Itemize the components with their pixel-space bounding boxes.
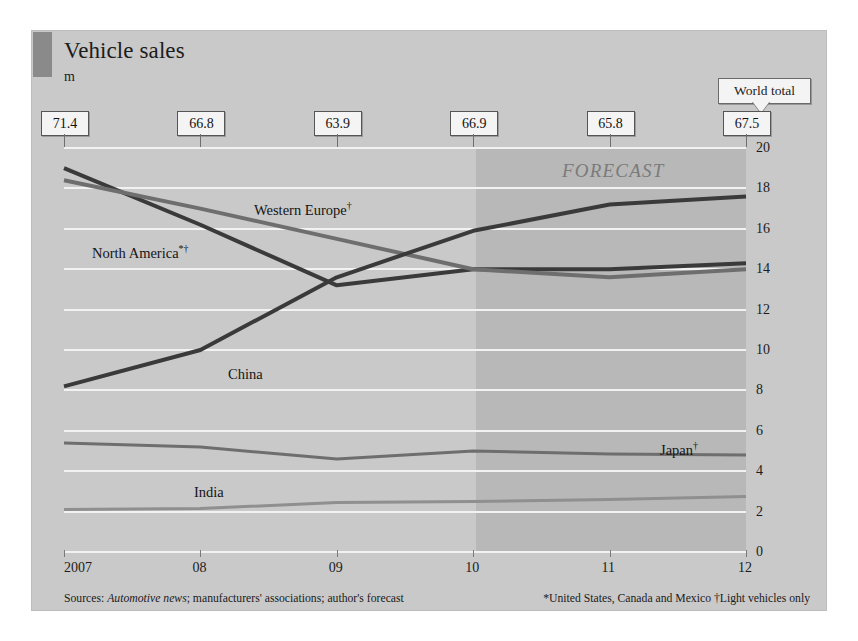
world-total-tick-09 [337, 134, 338, 147]
series-line-india [64, 496, 746, 509]
y-axis-tick-12: 12 [756, 302, 770, 318]
y-axis-tick-2: 2 [756, 504, 763, 520]
world-total-tick-08 [200, 134, 201, 147]
x-axis-tick-09: 09 [329, 560, 343, 576]
chart-plot-area: FORECAST 20070809101112 Western Europe† … [64, 148, 746, 552]
world-total-box-10: 66.9 [450, 111, 498, 136]
series-label-western-europe: Western Europe† [254, 200, 352, 219]
series-line-westerneurope [64, 180, 746, 277]
series-label-north-america-text: North America [92, 245, 179, 261]
world-total-box-09: 63.9 [314, 111, 362, 136]
title-accent-bar [33, 32, 52, 77]
world-total-tick-11 [610, 134, 611, 147]
x-tick-mark-2007 [64, 550, 65, 557]
series-label-japan-sup: † [693, 440, 698, 451]
series-line-china [64, 196, 746, 386]
footnotes: Sources: Automotive news; manufacturers'… [64, 592, 810, 605]
series-label-india: India [194, 484, 224, 501]
world-total-tick-2007 [64, 134, 65, 147]
y-axis-tick-6: 6 [756, 423, 763, 439]
x-tick-mark-08 [200, 550, 201, 557]
y-axis-tick-16: 16 [756, 221, 770, 237]
series-line-japan [64, 443, 746, 459]
y-axis-tick-4: 4 [756, 463, 763, 479]
world-total-callout-label: World total [734, 83, 795, 99]
page-title: Vehicle sales [64, 38, 185, 64]
footnote-definitions: *United States, Canada and Mexico †Light… [543, 592, 810, 605]
footnote-sources: Sources: Automotive news; manufacturers'… [64, 592, 404, 605]
series-label-western-europe-text: Western Europe [254, 202, 347, 218]
world-total-tick-12 [746, 134, 747, 147]
world-total-box-12: 67.5 [723, 111, 771, 136]
x-tick-mark-12 [746, 550, 747, 557]
series-label-western-europe-sup: † [347, 200, 352, 211]
world-total-box-11: 65.8 [587, 111, 635, 136]
series-label-japan-text: Japan [660, 442, 693, 458]
screenshot-root: Vehicle sales m World total 71.466.863.9… [0, 0, 858, 641]
x-tick-mark-10 [473, 550, 474, 557]
series-label-japan: Japan† [660, 440, 698, 459]
series-label-china: China [228, 366, 263, 383]
y-axis-tick-8: 8 [756, 382, 763, 398]
x-axis-tick-10: 10 [465, 560, 479, 576]
series-label-north-america-sup: *† [179, 243, 189, 254]
x-axis-tick-08: 08 [192, 560, 206, 576]
x-axis-tick-2007: 2007 [64, 560, 92, 576]
y-axis-tick-14: 14 [756, 261, 770, 277]
series-label-north-america: North America*† [92, 243, 189, 262]
x-tick-mark-09 [337, 550, 338, 557]
world-total-tick-10 [473, 134, 474, 147]
series-line-northamerica [64, 168, 746, 285]
x-axis-tick-12: 12 [738, 560, 752, 576]
units-label: m [64, 69, 75, 85]
series-lines [64, 148, 746, 552]
footnote-source-title: Automotive news [107, 592, 187, 605]
y-axis-tick-20: 20 [756, 140, 770, 156]
y-axis-tick-18: 18 [756, 180, 770, 196]
y-axis-tick-0: 0 [756, 544, 763, 560]
y-axis-tick-10: 10 [756, 342, 770, 358]
x-axis-tick-11: 11 [602, 560, 615, 576]
world-total-box-08: 66.8 [177, 111, 225, 136]
x-tick-mark-11 [610, 550, 611, 557]
world-total-box-2007: 71.4 [41, 111, 89, 136]
